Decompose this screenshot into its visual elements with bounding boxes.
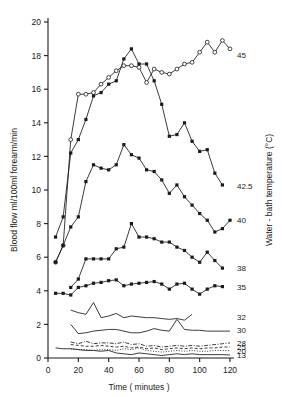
x-tick-label: 120 [223, 365, 237, 375]
data-point [69, 286, 72, 289]
series-line [56, 145, 230, 263]
series-label-38: 38 [237, 264, 246, 273]
data-point [205, 40, 209, 44]
data-point [198, 261, 201, 264]
data-point [130, 153, 133, 156]
data-point [69, 225, 72, 228]
data-point [198, 150, 201, 153]
series-layer [54, 39, 232, 356]
series-45 [54, 39, 232, 265]
series-line [71, 341, 230, 347]
series-42-5 [54, 143, 232, 264]
data-point [175, 67, 179, 71]
data-point [160, 282, 163, 285]
axes-layer: 02468101214161820020406080100120 [32, 17, 238, 375]
data-point [130, 64, 134, 68]
figure-container: 02468101214161820020406080100120 4542.54… [0, 0, 282, 397]
data-point [206, 219, 209, 222]
data-point [145, 81, 149, 85]
y-tick-label: 6 [36, 252, 41, 262]
data-point [221, 285, 224, 288]
data-point [206, 148, 209, 151]
data-point [137, 65, 141, 69]
data-point [213, 259, 216, 262]
data-point [77, 138, 80, 141]
data-point [99, 167, 102, 170]
data-point [160, 103, 163, 106]
data-point [183, 282, 186, 285]
data-point [145, 235, 148, 238]
data-point [190, 140, 193, 143]
series-label-42-5: 42.5 [237, 182, 253, 191]
data-point [76, 92, 80, 96]
data-point [69, 138, 73, 142]
series-32 [71, 303, 192, 321]
axis-titles-layer: Blood flow ml/100ml forearm/minWater - b… [9, 128, 274, 392]
x-tick-label: 40 [104, 365, 114, 375]
data-point [130, 222, 133, 225]
data-point [153, 237, 156, 240]
data-point [221, 183, 224, 186]
data-point [122, 57, 125, 60]
y-axis-title: Blood flow ml/100ml forearm/min [9, 128, 19, 252]
data-point [167, 72, 171, 76]
data-point [183, 195, 186, 198]
data-point [183, 121, 186, 124]
data-point [92, 282, 95, 285]
data-point [137, 62, 140, 65]
data-point [115, 278, 118, 281]
data-point [114, 69, 118, 73]
data-point [77, 215, 80, 218]
y-tick-label: 12 [32, 152, 42, 162]
data-point [107, 279, 110, 282]
data-point [92, 163, 95, 166]
series-labels-layer: 4542.5403835323028252013 [237, 51, 253, 360]
data-point [213, 284, 216, 287]
series-label-45: 45 [237, 51, 246, 60]
data-point [107, 76, 111, 80]
y-tick-label: 16 [32, 84, 42, 94]
data-point [137, 235, 140, 238]
data-point [115, 247, 118, 250]
data-point [213, 50, 217, 54]
data-point [153, 280, 156, 283]
y-tick-label: 10 [32, 185, 42, 195]
data-point [84, 180, 87, 183]
data-point [99, 82, 103, 86]
data-point [190, 60, 194, 64]
data-point [69, 293, 72, 296]
data-point [175, 246, 178, 249]
data-point [198, 212, 201, 215]
series-label-35: 35 [237, 283, 246, 292]
data-point [168, 135, 171, 138]
data-point [62, 244, 65, 247]
data-point [122, 284, 125, 287]
data-point [107, 168, 110, 171]
y2-axis-title: Water - bath temperature (°C) [264, 134, 274, 246]
data-point [206, 288, 209, 291]
blood-flow-line-chart: 02468101214161820020406080100120 4542.54… [0, 0, 282, 397]
data-point [168, 192, 171, 195]
data-point [54, 292, 57, 295]
series-30 [71, 319, 230, 333]
series-line [71, 224, 223, 288]
data-point [213, 230, 216, 233]
data-point [107, 257, 110, 260]
data-point [160, 71, 164, 75]
data-point [221, 267, 224, 270]
series-40 [69, 222, 224, 289]
y-tick-label: 0 [36, 353, 41, 363]
x-tick-label: 0 [46, 365, 51, 375]
data-point [221, 39, 225, 43]
data-point [145, 281, 148, 284]
data-point [84, 92, 88, 96]
data-point [92, 91, 96, 95]
series-38 [54, 278, 224, 296]
data-point [69, 151, 72, 154]
series-line [56, 40, 230, 262]
data-point [62, 215, 65, 218]
data-point [190, 256, 193, 259]
data-point [190, 204, 193, 207]
data-point [221, 227, 224, 230]
data-point [54, 261, 57, 264]
